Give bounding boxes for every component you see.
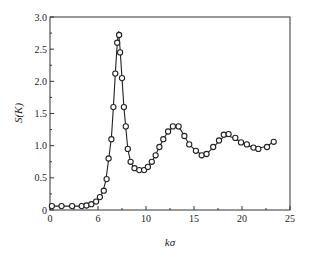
y-tick-label: 0	[42, 205, 47, 216]
x-tick-label: 15	[189, 213, 199, 224]
data-point	[97, 195, 102, 200]
x-tick-label: 10	[141, 213, 151, 224]
x-tick-label: 6	[96, 213, 101, 224]
data-point	[161, 137, 166, 142]
y-tick-label: 3.0	[35, 12, 48, 23]
data-point	[104, 177, 109, 182]
data-point	[121, 105, 126, 110]
data-point	[238, 140, 243, 145]
data-point	[182, 133, 187, 138]
data-point	[113, 71, 118, 76]
x-axis: 0610152025	[48, 206, 296, 224]
x-tick-label: 0	[48, 213, 53, 224]
y-tick-label: 1.0	[35, 140, 48, 151]
y-tick-label: 0.5	[35, 172, 48, 183]
data-point	[153, 153, 158, 158]
x-tick-label: 20	[237, 213, 247, 224]
series-line-theory	[50, 31, 274, 206]
data-point	[115, 40, 120, 45]
y-tick-label: 2.5	[35, 44, 48, 55]
data-point	[233, 135, 238, 140]
plot-frame	[50, 17, 290, 210]
data-point	[244, 142, 249, 147]
data-point	[166, 129, 171, 134]
data-point	[125, 146, 130, 151]
data-point	[149, 159, 154, 164]
x-axis-label: kσ	[165, 236, 176, 248]
data-point	[145, 164, 150, 169]
data-point	[94, 199, 99, 204]
data-point	[193, 148, 198, 153]
y-axis-label: S(K)	[12, 103, 25, 124]
data-point	[216, 138, 221, 143]
data-point	[271, 139, 276, 144]
data-point	[111, 105, 116, 110]
data-point	[117, 32, 122, 37]
y-tick-label: 1.5	[35, 108, 48, 119]
data-point	[204, 151, 209, 156]
data-point	[59, 204, 64, 209]
data-point	[157, 144, 162, 149]
data-point	[170, 124, 175, 129]
data-point	[118, 50, 123, 55]
x-tick-label: 25	[285, 213, 295, 224]
data-point	[256, 146, 261, 151]
data-point	[119, 76, 124, 81]
y-tick-label: 2.0	[35, 76, 48, 87]
data-point	[264, 144, 269, 149]
data-point	[187, 142, 192, 147]
y-axis: 00.51.01.52.02.53.0	[35, 12, 55, 216]
data-point	[101, 188, 106, 193]
data-point	[226, 132, 231, 137]
data-point	[211, 144, 216, 149]
data-point	[70, 204, 75, 209]
data-point	[49, 204, 54, 209]
series-markers-simulation	[49, 32, 276, 208]
data-point	[123, 124, 128, 129]
data-point	[128, 159, 133, 164]
data-point	[106, 156, 111, 161]
structure-factor-chart: 0610152025 00.51.01.52.02.53.0 kσ S(K)	[0, 0, 309, 258]
data-point	[109, 137, 114, 142]
data-point	[176, 124, 181, 129]
